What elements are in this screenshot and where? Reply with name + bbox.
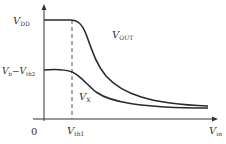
y-axis-arrow-icon	[42, 4, 47, 10]
vx-label: VX	[79, 91, 91, 103]
vb-minus-vth2-label: Vb−Vth2	[2, 66, 35, 77]
diagram-canvas: VDD Vb−Vth2 VOUT VX 0 Vth1 Vin	[0, 0, 226, 144]
vth1-label: Vth1	[67, 125, 84, 137]
vdd-label: VDD	[13, 15, 30, 27]
vout-label: VOUT	[112, 29, 133, 41]
vin-axis-label: Vin	[209, 125, 222, 137]
vout-curve	[44, 20, 208, 106]
x-axis-arrow-icon	[212, 117, 218, 122]
vx-curve	[44, 69, 208, 108]
origin-label: 0	[31, 126, 37, 137]
